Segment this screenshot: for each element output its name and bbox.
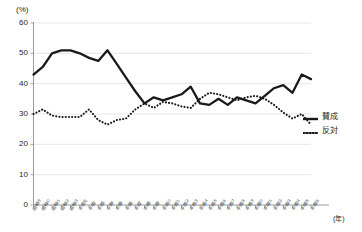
x-axis-unit-label: (年) [333, 213, 345, 223]
legend-item-agree: 賛成 [303, 108, 361, 122]
legend-item-oppose: 反対 [303, 122, 361, 136]
legend-swatch-dotted-icon [303, 124, 318, 134]
legend-swatch-solid-icon [303, 110, 318, 120]
legend-label-oppose: 反対 [322, 124, 338, 135]
legend-label-agree: 賛成 [322, 110, 338, 121]
chart-container: (%) 0102030405060 昭和59昭和60昭和61昭和62昭和63平成… [0, 0, 362, 232]
series-line-agree [34, 50, 312, 105]
chart-legend: 賛成 反対 [303, 108, 361, 136]
